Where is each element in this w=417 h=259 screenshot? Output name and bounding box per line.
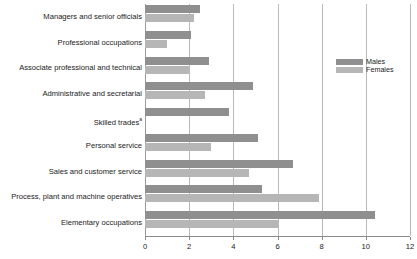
category-label: Elementary occupations xyxy=(5,218,145,227)
bar-group xyxy=(145,210,410,236)
category-label: Administrative and secretarial xyxy=(5,89,145,98)
bar-females xyxy=(145,91,205,99)
x-tick-label: 2 xyxy=(187,242,191,251)
category-label: Managers and senior officials xyxy=(5,12,145,21)
bar-females xyxy=(145,143,211,151)
bar-females xyxy=(145,66,189,74)
x-tick-label: 6 xyxy=(275,242,279,251)
bar-males xyxy=(145,82,253,90)
bar-group xyxy=(145,133,410,159)
gridline-12 xyxy=(410,4,411,236)
bar-group xyxy=(145,159,410,185)
x-tick xyxy=(145,237,146,240)
legend-label-females: Females xyxy=(366,66,394,74)
bar-males xyxy=(145,211,375,219)
bar-females xyxy=(145,169,249,177)
x-tick xyxy=(410,237,411,240)
bar-males xyxy=(145,5,200,13)
bar-males xyxy=(145,108,229,116)
category-label: Professional occupations xyxy=(5,38,145,47)
bar-males xyxy=(145,31,191,39)
bar-group xyxy=(145,30,410,56)
x-tick-label: 10 xyxy=(362,242,370,251)
category-label: Associate professional and technical xyxy=(5,63,145,72)
bar-group xyxy=(145,81,410,107)
bar-males xyxy=(145,134,258,142)
x-tick-label: 4 xyxy=(231,242,235,251)
bar-males xyxy=(145,185,262,193)
bar-females xyxy=(145,194,319,202)
x-tick-label: 12 xyxy=(406,242,414,251)
chart-legend: MalesFemales xyxy=(336,58,394,74)
bar-females xyxy=(145,220,278,228)
bar-group xyxy=(145,107,410,133)
grouped-bar-chart: Managers and senior officialsProfessiona… xyxy=(0,0,417,259)
bar-females xyxy=(145,14,194,22)
bar-group xyxy=(145,184,410,210)
x-tick xyxy=(233,237,234,240)
footnote-marker: a xyxy=(139,116,142,122)
x-tick-label: 8 xyxy=(320,242,324,251)
x-axis-ticks: 024681012 xyxy=(145,237,410,257)
x-tick xyxy=(189,237,190,240)
x-tick xyxy=(278,237,279,240)
legend-item-females: Females xyxy=(336,66,394,74)
bar-group xyxy=(145,4,410,30)
bar-males xyxy=(145,57,209,65)
category-axis-labels: Managers and senior officialsProfessiona… xyxy=(0,4,145,236)
x-tick xyxy=(366,237,367,240)
plot-area xyxy=(145,4,410,236)
category-label: Skilled tradesa xyxy=(5,115,145,127)
bar-males xyxy=(145,160,293,168)
category-label: Process, plant and machine operatives xyxy=(5,192,145,201)
category-label: Personal service xyxy=(5,141,145,150)
category-label: Sales and customer service xyxy=(5,167,145,176)
legend-swatch-females xyxy=(336,67,363,73)
legend-swatch-males xyxy=(336,59,363,65)
x-tick-label: 0 xyxy=(143,242,147,251)
bar-females xyxy=(145,40,167,48)
x-tick xyxy=(322,237,323,240)
